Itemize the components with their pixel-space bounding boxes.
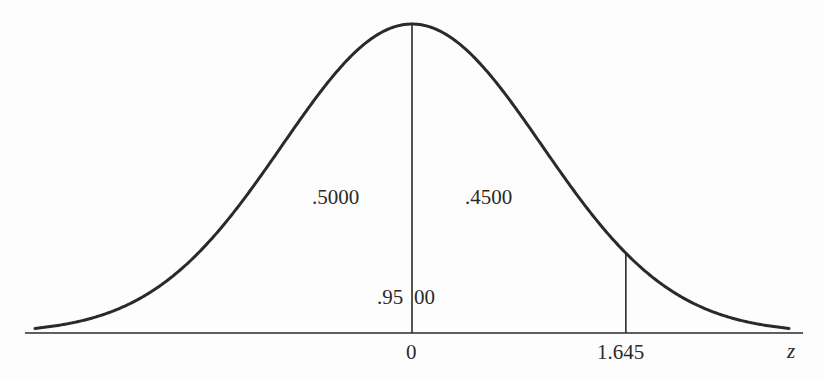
total-area-label-right-part: 00	[414, 287, 435, 308]
normal-distribution-diagram: .5000 .4500 .95 00 0 1.645 z	[0, 0, 823, 380]
tick-label-zero: 0	[406, 342, 417, 363]
total-area-label-left-part: .95	[377, 287, 403, 308]
axis-variable-label: z	[787, 341, 795, 362]
left-half-area-label: .5000	[312, 187, 359, 208]
tick-label-critical-value: 1.645	[597, 342, 644, 363]
middle-area-label: .4500	[465, 187, 512, 208]
normal-curve-figure	[0, 0, 823, 380]
